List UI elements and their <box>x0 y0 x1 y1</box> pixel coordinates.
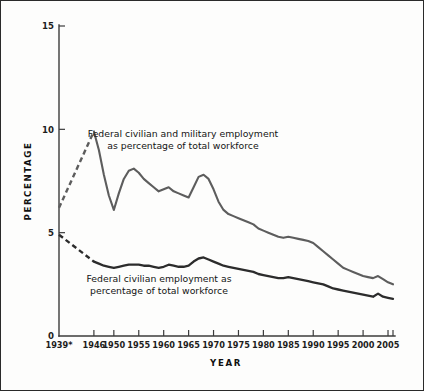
y-tick-label: 5 <box>48 228 54 238</box>
upper-series-annotation: Federal civilian and military employment <box>88 128 279 139</box>
y-tick-label: 15 <box>42 21 54 31</box>
x-tick-label: 1960 <box>152 340 175 350</box>
x-tick-label: 1950 <box>102 340 125 350</box>
lower-series-annotation: Federal civilian employment as <box>87 273 232 284</box>
x-tick-label: 1980 <box>252 340 275 350</box>
lower-series-dashed-segment <box>59 235 94 262</box>
x-axis-title: YEAR <box>209 358 242 368</box>
x-tick-label: 2005 <box>377 340 400 350</box>
y-axis-title: PERCENTAGE <box>23 142 33 221</box>
upper-series-dashed-segment <box>59 131 94 207</box>
x-tick-label: 1985 <box>277 340 300 350</box>
x-tick-label: 1995 <box>327 340 350 350</box>
lower-series-annotation-2: percentage of total workforce <box>90 285 228 296</box>
chart-labels: 0510151939*19461950195519601965197019751… <box>23 21 400 368</box>
x-tick-label: 1970 <box>202 340 225 350</box>
upper-series-path <box>94 131 393 284</box>
upper-series-annotation-2: as percentage of total workforce <box>107 140 259 151</box>
chart-figure: 0510151939*19461950195519601965197019751… <box>0 0 424 391</box>
x-tick-label: 1965 <box>177 340 200 350</box>
x-tick-label: 1955 <box>127 340 150 350</box>
x-tick-label: 1990 <box>302 340 325 350</box>
x-tick-label: 1939* <box>45 340 73 350</box>
x-tick-label: 2000 <box>352 340 375 350</box>
x-tick-label: 1975 <box>227 340 250 350</box>
line-chart-canvas: 0510151939*19461950195519601965197019751… <box>1 1 424 391</box>
y-tick-label: 10 <box>42 125 54 135</box>
